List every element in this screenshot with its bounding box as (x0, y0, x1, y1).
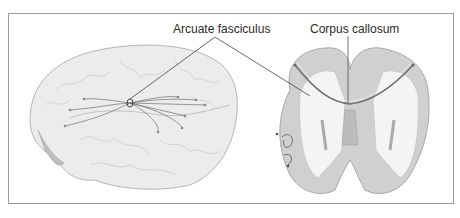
coronal-section-illustration (276, 48, 429, 194)
arcuate-fasciculus-label: Arcuate fasciculus (173, 22, 270, 36)
lateral-brain-illustration (30, 45, 237, 189)
corpus-callosum-label: Corpus callosum (310, 22, 399, 36)
